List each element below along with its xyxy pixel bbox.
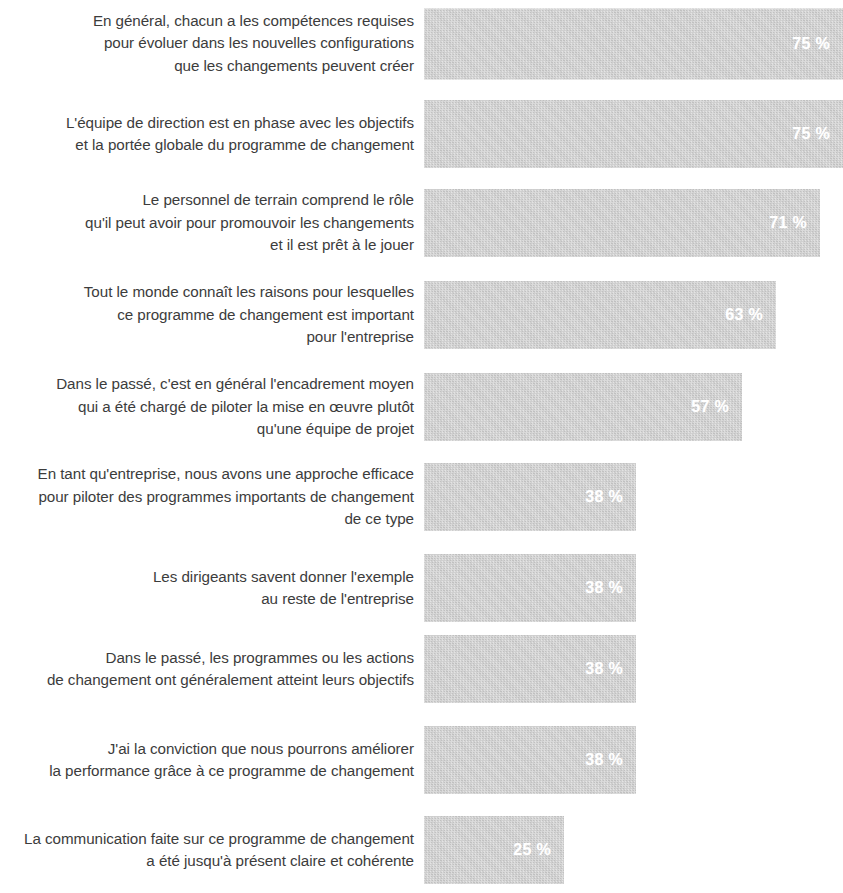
bar-track: 71 % <box>424 189 827 257</box>
bar-value-label: 75 % <box>792 125 843 143</box>
bar-value-label: 38 % <box>585 660 636 678</box>
bar: 38 % <box>424 554 636 622</box>
bar-category-label: Les dirigeants savent donner l'exemple a… <box>0 566 424 611</box>
bar-category-label: En général, chacun a les compétences req… <box>0 10 424 78</box>
chart-row: Le personnel de terrain comprend le rôle… <box>0 189 827 257</box>
bar-track: 38 % <box>424 635 827 703</box>
bar-value-label: 71 % <box>769 214 820 232</box>
bar-track: 63 % <box>424 281 827 349</box>
bar-category-label: Le personnel de terrain comprend le rôle… <box>0 189 424 257</box>
bar-track: 57 % <box>424 373 827 441</box>
bar: 75 % <box>424 100 843 168</box>
chart-row: L'équipe de direction est en phase avec … <box>0 100 827 168</box>
bar-track: 38 % <box>424 463 827 531</box>
chart-row: En général, chacun a les compétences req… <box>0 8 827 79</box>
chart-row: Les dirigeants savent donner l'exemple a… <box>0 554 827 622</box>
bar: 71 % <box>424 189 820 257</box>
chart-row: Dans le passé, c'est en général l'encadr… <box>0 373 827 441</box>
bar-value-label: 25 % <box>513 841 564 859</box>
bar-track: 75 % <box>424 100 827 168</box>
bar: 63 % <box>424 281 776 349</box>
bar-category-label: Tout le monde connaît les raisons pour l… <box>0 281 424 349</box>
bar-track: 75 % <box>424 8 827 79</box>
chart-row: Tout le monde connaît les raisons pour l… <box>0 281 827 349</box>
chart-row: En tant qu'entreprise, nous avons une ap… <box>0 463 827 531</box>
bar-category-label: La communication faite sur ce programme … <box>0 828 424 873</box>
bar-value-label: 57 % <box>691 398 742 416</box>
chart-row: J'ai la conviction que nous pourrons amé… <box>0 726 827 794</box>
bar-category-label: J'ai la conviction que nous pourrons amé… <box>0 738 424 783</box>
bar: 38 % <box>424 463 636 531</box>
bar-category-label: En tant qu'entreprise, nous avons une ap… <box>0 463 424 531</box>
bar-track: 25 % <box>424 816 827 884</box>
bar-value-label: 38 % <box>585 579 636 597</box>
bar-value-label: 38 % <box>585 488 636 506</box>
bar-category-label: Dans le passé, les programmes ou les act… <box>0 647 424 692</box>
bar-value-label: 63 % <box>725 306 776 324</box>
bar: 75 % <box>424 8 843 79</box>
bar-category-label: L'équipe de direction est en phase avec … <box>0 112 424 157</box>
chart-row: Dans le passé, les programmes ou les act… <box>0 635 827 703</box>
chart-row: La communication faite sur ce programme … <box>0 816 827 884</box>
bar-track: 38 % <box>424 726 827 794</box>
bar-value-label: 75 % <box>792 35 843 53</box>
bar-track: 38 % <box>424 554 827 622</box>
bar: 25 % <box>424 816 564 884</box>
bar-category-label: Dans le passé, c'est en général l'encadr… <box>0 373 424 441</box>
bar-value-label: 38 % <box>585 751 636 769</box>
bar: 38 % <box>424 635 636 703</box>
bar: 57 % <box>424 373 742 441</box>
bar: 38 % <box>424 726 636 794</box>
